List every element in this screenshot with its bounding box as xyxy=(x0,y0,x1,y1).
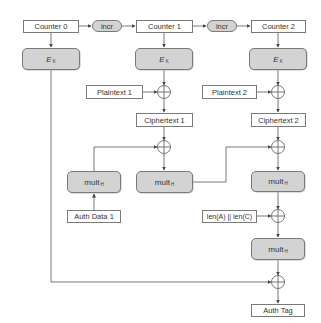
incr-1-pill: incr xyxy=(92,20,122,32)
mult-label: mult xyxy=(268,245,283,254)
mult-subscript: H xyxy=(284,181,287,186)
mult-subscript: H xyxy=(171,182,174,187)
mult-h-2-block: multH xyxy=(251,171,305,192)
plaintext-2-box: Plaintext 2 xyxy=(202,85,257,99)
encrypt-0-block: EK xyxy=(22,48,80,70)
mult-subscript: H xyxy=(100,182,103,187)
mult-h-final-block: multH xyxy=(251,238,305,260)
auth-data-box: Auth Data 1 xyxy=(67,210,121,223)
encrypt-label: E xyxy=(46,55,51,64)
ciphertext-1-box: Ciphertext 1 xyxy=(136,113,193,127)
mult-label: mult xyxy=(155,178,170,187)
xor-icon xyxy=(272,276,285,289)
encrypt-subscript: K xyxy=(280,59,283,64)
counter-2-box: Counter 2 xyxy=(251,20,306,33)
ciphertext-2-box: Ciphertext 2 xyxy=(251,113,306,127)
auth-tag-box: Auth Tag xyxy=(251,304,305,317)
xor-icon xyxy=(158,141,171,154)
lengths-box: len(A) || len(C) xyxy=(202,210,257,223)
encrypt-subscript: K xyxy=(53,59,56,64)
encrypt-label: E xyxy=(159,55,164,64)
xor-icon xyxy=(272,141,285,154)
xor-icon xyxy=(272,86,285,99)
encrypt-label: E xyxy=(273,55,278,64)
counter-0-box: Counter 0 xyxy=(23,20,79,33)
mult-subscript: H xyxy=(284,249,287,254)
xor-icon xyxy=(272,210,285,223)
mult-h-auth-block: multH xyxy=(67,171,121,193)
encrypt-1-block: EK xyxy=(135,48,193,70)
xor-icon xyxy=(158,86,171,99)
mult-h-1-block: multH xyxy=(136,171,193,193)
encrypt-2-block: EK xyxy=(249,48,307,70)
counter-1-box: Counter 1 xyxy=(136,20,193,33)
encrypt-subscript: K xyxy=(166,59,169,64)
incr-2-pill: incr xyxy=(207,20,237,32)
plaintext-1-box: Plaintext 1 xyxy=(86,85,143,99)
mult-label: mult xyxy=(268,177,283,186)
mult-label: mult xyxy=(84,178,99,187)
